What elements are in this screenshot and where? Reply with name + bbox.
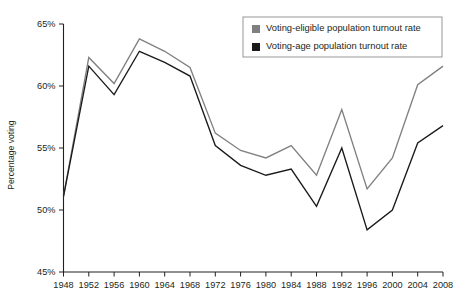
x-tick-label: 2008 [433, 280, 453, 290]
x-axis-group: 1948195219561960196419681972197619801984… [53, 272, 453, 290]
series-line-voting-age [64, 51, 444, 230]
y-tick-label: 45% [37, 267, 55, 277]
x-tick-label: 1960 [129, 280, 149, 290]
y-tick-label: 65% [37, 19, 55, 29]
x-tick-label: 1976 [230, 280, 250, 290]
y-axis-group: 65%60%55%50%45% [37, 19, 63, 277]
chart-legend: Voting-eligible population turnout rateV… [243, 17, 442, 57]
legend-label-0: Voting-eligible population turnout rate [266, 22, 421, 33]
x-tick-label: 1996 [357, 280, 377, 290]
y-tick-group: 65%60%55%50%45% [37, 19, 63, 277]
chart-canvas: 65%60%55%50%45% 194819521956196019641968… [0, 0, 461, 307]
x-tick-label: 1968 [180, 280, 200, 290]
x-tick-label: 1964 [154, 280, 174, 290]
x-tick-label: 1948 [53, 280, 73, 290]
y-tick-label: 55% [37, 143, 55, 153]
x-tick-label: 1988 [306, 280, 326, 290]
legend-swatch-0 [252, 25, 260, 33]
y-axis-title: Percentage voting [6, 120, 16, 189]
x-tick-label: 1956 [104, 280, 124, 290]
series-line-voting-eligible [64, 39, 444, 196]
legend-label-1: Voting-age population turnout rate [266, 40, 407, 51]
turnout-line-chart: 65%60%55%50%45% 194819521956196019641968… [0, 0, 461, 307]
x-tick-label: 1984 [281, 280, 301, 290]
x-tick-label: 1992 [332, 280, 352, 290]
x-tick-label: 1972 [205, 280, 225, 290]
legend-swatch-1 [252, 43, 260, 51]
series-group [64, 39, 444, 230]
x-tick-label: 1980 [256, 280, 276, 290]
x-tick-label: 2004 [407, 280, 427, 290]
x-tick-label: 1952 [79, 280, 99, 290]
y-tick-label: 60% [37, 81, 55, 91]
y-tick-label: 50% [37, 205, 55, 215]
x-tick-group: 1948195219561960196419681972197619801984… [53, 272, 453, 290]
x-tick-label: 2000 [382, 280, 402, 290]
